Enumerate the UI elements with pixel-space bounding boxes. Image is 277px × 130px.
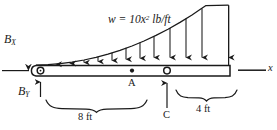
dimension-brace-4ft bbox=[176, 90, 237, 101]
load-equation-prefix: w = 10x bbox=[108, 13, 146, 25]
reaction-bx-subscript: X bbox=[11, 38, 16, 47]
beam-load-diagram: w = 10x2 lb/ft BX BY A C 8 ft 4 ft x bbox=[0, 0, 277, 130]
reaction-bx-label: BX bbox=[4, 33, 16, 45]
dimension-4ft-label: 4 ft bbox=[196, 104, 210, 115]
roller-support-c bbox=[164, 67, 171, 74]
x-axis-label: x bbox=[268, 63, 273, 74]
point-c-label: C bbox=[163, 110, 170, 121]
dimension-8ft-label: 8 ft bbox=[78, 112, 92, 123]
point-a-marker bbox=[130, 69, 134, 73]
point-a-label: A bbox=[128, 78, 136, 89]
reaction-by-label: BY bbox=[18, 85, 29, 97]
dimension-brace-8ft bbox=[46, 100, 147, 112]
reaction-by-subscript: Y bbox=[25, 90, 29, 99]
load-equation-suffix: lb/ft bbox=[149, 13, 170, 25]
pin-support-b bbox=[37, 67, 44, 74]
load-equation-exponent: 2 bbox=[146, 14, 150, 22]
load-equation-label: w = 10x2 lb/ft bbox=[108, 14, 171, 26]
